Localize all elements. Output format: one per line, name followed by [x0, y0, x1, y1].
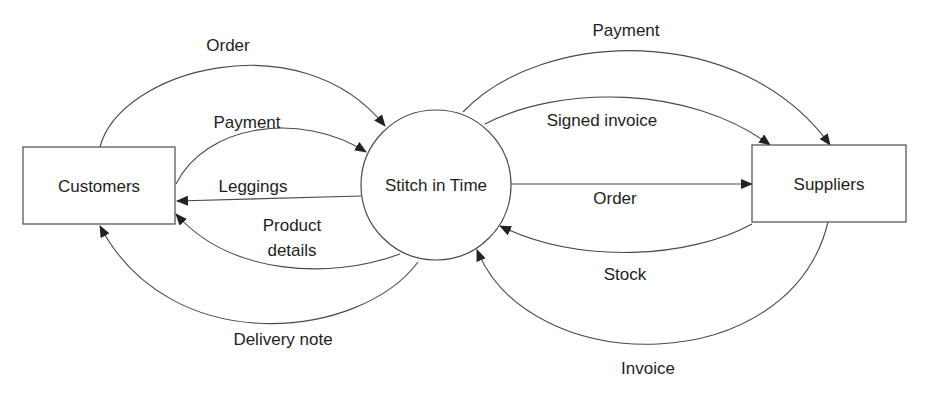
flow-order-stitch-to-suppliers: Order [511, 184, 752, 208]
flow-label-stock: Stock [604, 265, 647, 284]
data-flow-diagram: Order Payment Leggings Product details D… [0, 0, 929, 394]
arrow-payment-out [463, 51, 830, 145]
flow-label-order-out: Order [593, 189, 637, 208]
process-stitch-in-time: Stitch in Time [361, 110, 511, 260]
arrow-stock [500, 224, 752, 252]
flow-delivery-note-stitch-to-customers: Delivery note [100, 226, 418, 349]
entity-customers: Customers [23, 147, 175, 224]
arrow-invoice [477, 222, 828, 344]
suppliers-label: Suppliers [794, 175, 865, 194]
flow-leggings-stitch-to-customers: Leggings [177, 177, 361, 201]
flow-signed-invoice-stitch-to-suppliers: Signed invoice [485, 97, 770, 145]
arrow-leggings [177, 196, 361, 201]
customers-label: Customers [58, 177, 140, 196]
arrow-payment-in [176, 128, 366, 184]
flow-payment-customers-to-stitch: Payment [176, 113, 366, 184]
flow-product-details-stitch-to-customers: Product details [176, 214, 400, 269]
flow-label-payment-out: Payment [592, 21, 659, 40]
flow-label-details: details [267, 241, 316, 260]
flow-label-delivery-note: Delivery note [233, 330, 332, 349]
flow-stock-suppliers-to-stitch: Stock [500, 224, 752, 284]
flow-label-leggings: Leggings [218, 177, 287, 196]
entity-suppliers: Suppliers [752, 145, 906, 222]
flow-label-invoice: Invoice [621, 359, 675, 378]
flow-label-payment-in: Payment [213, 113, 280, 132]
flow-label-signed-invoice: Signed invoice [547, 111, 658, 130]
flow-label-product: Product [263, 216, 322, 235]
flow-label-order-in: Order [206, 36, 250, 55]
arrow-delivery-note [100, 226, 418, 324]
arrow-order-in [100, 65, 385, 147]
process-label: Stitch in Time [385, 176, 487, 195]
flow-invoice-suppliers-to-stitch: Invoice [477, 222, 828, 378]
